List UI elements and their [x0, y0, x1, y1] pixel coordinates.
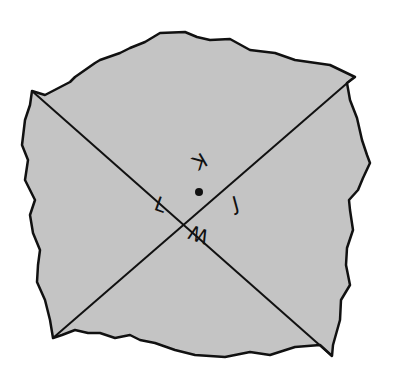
- plane-diagram: K J W L: [0, 0, 397, 374]
- intersection-point: [195, 188, 203, 196]
